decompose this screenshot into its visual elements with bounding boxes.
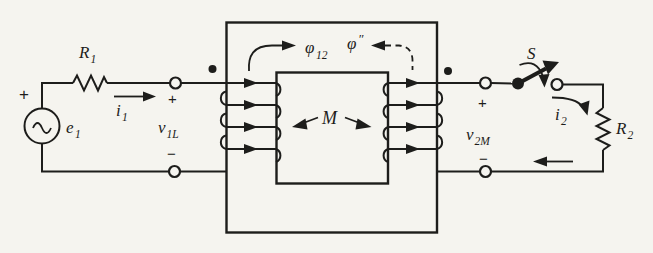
winding-arrowhead-icon bbox=[406, 122, 420, 132]
winding-arrowhead-icon bbox=[406, 100, 420, 110]
v1l-plus-sign: + bbox=[168, 90, 177, 107]
terminal-node bbox=[480, 166, 491, 177]
flux-phi12-label: φ bbox=[305, 38, 314, 57]
switch-arc-arrowhead-icon bbox=[539, 74, 550, 88]
winding-arrowhead-icon bbox=[244, 78, 258, 88]
source-label: e bbox=[66, 118, 74, 137]
resistor-r2-icon bbox=[597, 108, 610, 150]
source-plus-sign: + bbox=[19, 85, 29, 104]
winding-arrowhead-icon bbox=[406, 144, 420, 154]
polarity-dot-icon bbox=[444, 67, 452, 75]
flux-phi2-label: φ bbox=[347, 34, 356, 53]
flux-phi12-arrowhead-icon bbox=[282, 41, 296, 51]
switch-label: S bbox=[527, 44, 536, 63]
current-i2-arrowhead-icon bbox=[579, 101, 590, 116]
switch-contact-node bbox=[552, 79, 563, 90]
secondary-circuit: S i 2 R 2 + v 2M − bbox=[437, 44, 634, 177]
resistor-r2-label: R bbox=[615, 119, 627, 138]
winding-arrowhead-icon bbox=[244, 100, 258, 110]
flux-phi2-arrowhead-icon bbox=[371, 41, 385, 51]
v2m-plus-sign: + bbox=[478, 94, 487, 111]
circuit-diagram: + e 1 R 1 i 1 + v 1L − bbox=[0, 0, 653, 253]
primary-circuit: + e 1 R 1 i 1 + v 1L − bbox=[19, 43, 226, 177]
winding-turns bbox=[226, 83, 276, 149]
current-i1-arrowhead-icon bbox=[143, 92, 156, 102]
mutual-inductance-label: M bbox=[321, 108, 338, 128]
figure-transformer-circuit: + e 1 R 1 i 1 + v 1L − bbox=[0, 0, 653, 253]
source-label-sub: 1 bbox=[75, 128, 81, 140]
wire bbox=[42, 83, 73, 109]
winding-arrowhead-icon bbox=[406, 78, 420, 88]
flux-phi2-label-sup: ″ bbox=[358, 31, 364, 46]
primary-winding bbox=[221, 78, 281, 162]
flux-phi12-label-sub: 12 bbox=[316, 49, 328, 61]
mutual-arrowhead-left-icon bbox=[292, 119, 308, 130]
resistor-r1-icon bbox=[73, 76, 107, 91]
v1l-minus-sign: − bbox=[167, 145, 176, 162]
flux-phi2-arrow bbox=[385, 46, 413, 71]
return-current-arrowhead-icon bbox=[533, 157, 547, 167]
mutual-arrowhead-right-icon bbox=[356, 119, 372, 130]
core-window-rect bbox=[277, 73, 389, 184]
winding-loop-arcs bbox=[221, 92, 226, 150]
winding-turns bbox=[388, 83, 437, 149]
voltage-v2m-label-sub: 2M bbox=[475, 135, 492, 147]
sine-wave-icon bbox=[33, 123, 51, 133]
resistor-r2-label-sub: 2 bbox=[628, 129, 634, 141]
transformer-core: φ 12 φ ″ M bbox=[221, 23, 442, 233]
flux-phi12-arrow bbox=[249, 46, 282, 72]
current-i2-label: i bbox=[555, 105, 560, 124]
voltage-v1l-label: v bbox=[158, 118, 166, 137]
current-i2-label-sub: 2 bbox=[561, 115, 567, 127]
wire bbox=[491, 83, 513, 84]
v2m-minus-sign: − bbox=[479, 150, 488, 167]
resistor-r1-label: R bbox=[78, 43, 90, 62]
resistor-r1-label-sub: 1 bbox=[91, 53, 97, 65]
voltage-v1l-label-sub: 1L bbox=[167, 128, 179, 140]
voltage-v2m-label: v bbox=[466, 125, 474, 144]
winding-arrowhead-icon bbox=[244, 144, 258, 154]
current-i1-label: i bbox=[116, 101, 121, 120]
terminal-node bbox=[480, 78, 491, 89]
current-i1-label-sub: 1 bbox=[122, 111, 128, 123]
polarity-dot-icon bbox=[209, 65, 217, 73]
terminal-node bbox=[169, 166, 180, 177]
terminal-node bbox=[170, 78, 181, 89]
winding-arrowhead-icon bbox=[244, 122, 258, 132]
secondary-winding bbox=[384, 78, 443, 162]
wire bbox=[42, 144, 169, 172]
